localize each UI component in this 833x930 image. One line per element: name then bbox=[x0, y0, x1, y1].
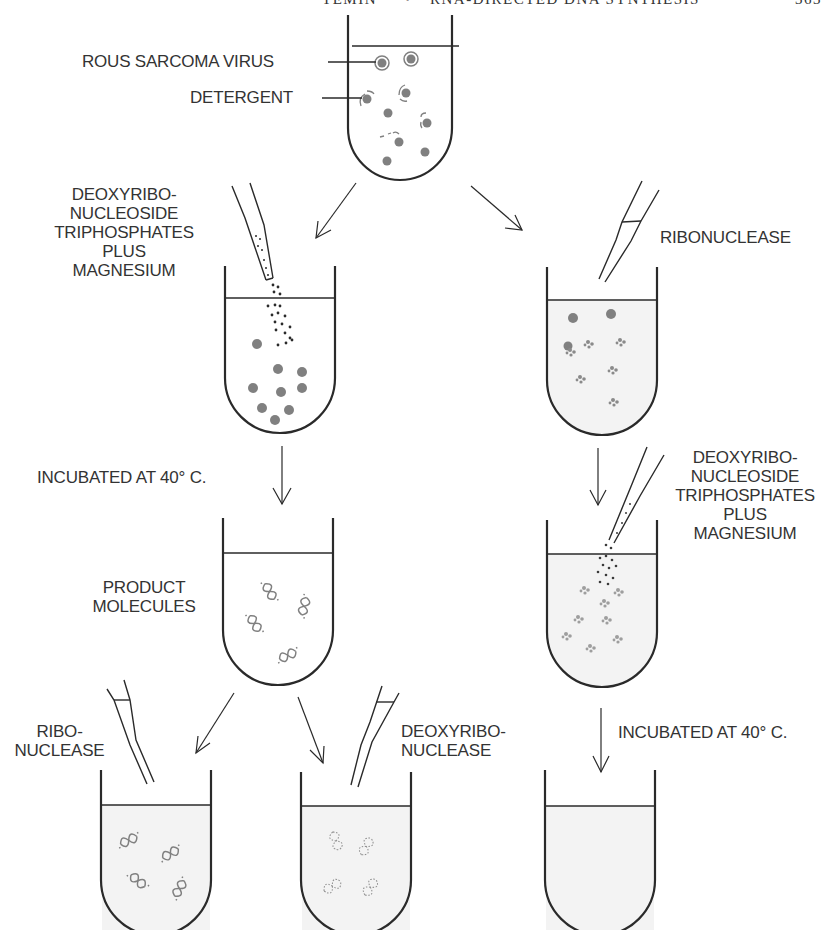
arrow-down-right-icon bbox=[298, 697, 324, 763]
tube-virus-detergent bbox=[322, 15, 459, 180]
pipette-icon bbox=[351, 686, 399, 787]
nucleotide-dots bbox=[255, 235, 293, 346]
tube-ribonuclease bbox=[547, 181, 659, 435]
tube-product bbox=[223, 518, 333, 685]
tube-product-deoxyribonuclease bbox=[301, 686, 411, 930]
tube-product-ribonuclease bbox=[101, 680, 211, 930]
label-deoxyribonuclease: DEOXYRIBO- NUCLEASE bbox=[401, 722, 506, 760]
tube-no-product bbox=[545, 770, 655, 930]
label-rous-sarcoma-virus: ROUS SARCOMA VIRUS bbox=[82, 52, 274, 71]
label-ribonuclease-bottom: RIBO- NUCLEASE bbox=[2, 722, 117, 760]
virus-core-dots bbox=[248, 339, 307, 425]
tube-rnase-dntp bbox=[547, 447, 664, 687]
arrow-down-icon bbox=[590, 448, 606, 505]
dna-helix-icon bbox=[244, 579, 311, 665]
label-dntp-right: DEOXYRIBO- NUCLEOSIDE TRIPHOSPHATES PLUS… bbox=[655, 448, 833, 543]
label-ribonuclease: RIBONUCLEASE bbox=[660, 228, 791, 247]
label-incubated-right: INCUBATED AT 40° C. bbox=[618, 723, 787, 742]
pipette-icon bbox=[599, 181, 659, 282]
label-detergent: DETERGENT bbox=[190, 88, 293, 107]
arrow-down-left-icon bbox=[196, 693, 234, 753]
virus-particle-icon bbox=[375, 52, 418, 70]
arrow-down-icon bbox=[593, 708, 609, 772]
label-product-molecules: PRODUCT MOLECULES bbox=[74, 578, 214, 616]
arrow-down-right-icon bbox=[471, 186, 522, 230]
disrupted-virus-icon bbox=[360, 85, 431, 166]
label-dntp-left: DEOXYRIBO- NUCLEOSIDE TRIPHOSPHATES PLUS… bbox=[34, 185, 214, 280]
label-incubated-left: INCUBATED AT 40° C. bbox=[37, 468, 206, 487]
pipette-icon bbox=[232, 183, 273, 280]
tube-dntp bbox=[225, 183, 335, 433]
arrow-down-icon bbox=[273, 446, 291, 504]
arrow-down-left-icon bbox=[316, 183, 356, 238]
